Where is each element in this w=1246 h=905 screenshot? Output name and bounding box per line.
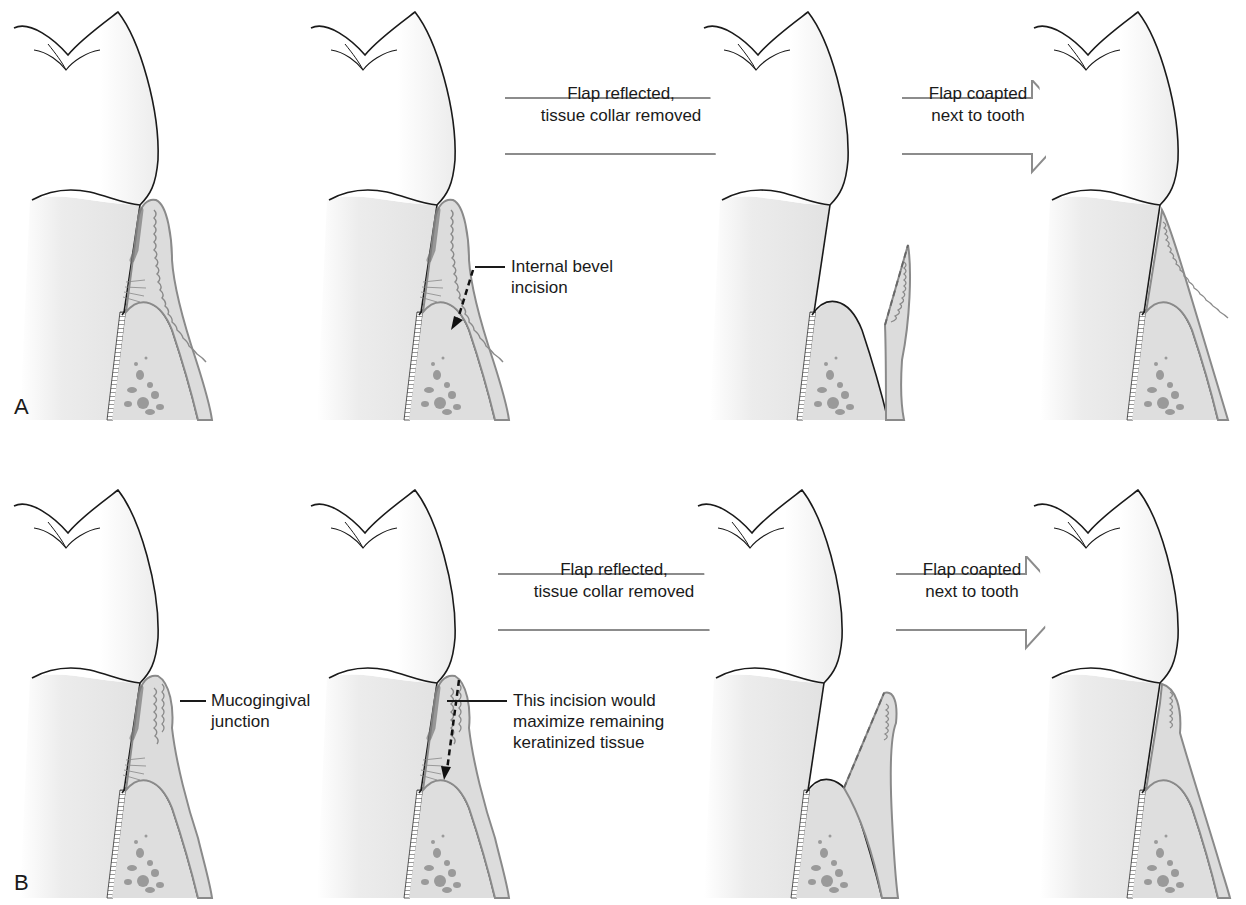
tooth-illustration: [1020, 0, 1246, 430]
tooth-illustration: [690, 0, 930, 430]
tooth-illustration: [684, 478, 924, 905]
tooth-illustration: [297, 0, 537, 430]
panel-b4-coapted: [1020, 478, 1246, 905]
callout-text: junction: [211, 711, 310, 732]
panel-a1-initial: [0, 0, 240, 430]
tooth-illustration: [1020, 478, 1246, 905]
panel-a4-coapted: [1020, 0, 1246, 430]
row-b: Mucogingival junction This incision woul…: [0, 478, 1246, 905]
row-a: Internal bevel incision Flap reflected, …: [0, 0, 1246, 440]
callout-mucogingival-junction: Mucogingival junction: [180, 690, 310, 732]
callout-internal-bevel: Internal bevel incision: [475, 256, 613, 298]
callout-text: Internal bevel: [511, 256, 613, 277]
callout-text: Mucogingival: [211, 690, 310, 711]
panel-a3-reflected: [690, 0, 930, 430]
panel-b3-reflected: [684, 478, 924, 905]
callout-incision-note: This incision would maximize remaining k…: [447, 690, 664, 753]
row-label-b: B: [14, 870, 29, 896]
callout-text: keratinized tissue: [513, 732, 664, 753]
row-label-a: A: [14, 394, 29, 420]
callout-text: incision: [511, 277, 613, 298]
panel-a2-incision: [297, 0, 537, 430]
tooth-illustration: [0, 0, 240, 430]
callout-text: maximize remaining: [513, 711, 664, 732]
callout-text: This incision would: [513, 690, 664, 711]
